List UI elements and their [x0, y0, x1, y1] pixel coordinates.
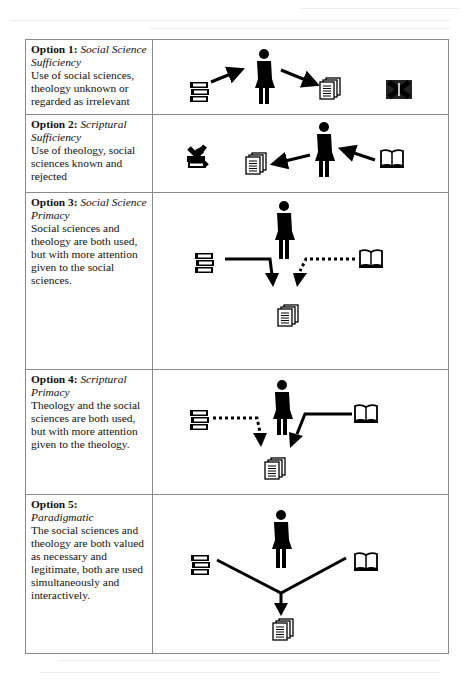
option-3-description: Social sciences and theology are both us…: [31, 222, 138, 286]
option-4-text: Option 4: Scriptural Primacy Theology an…: [26, 370, 153, 495]
option-4-number: Option 4:: [31, 373, 78, 385]
person-icon: [315, 122, 335, 177]
books-icon: [191, 555, 210, 575]
option-1-figure: [153, 40, 449, 115]
documents-icon: [320, 78, 340, 99]
option-4-description: Theology and the social sciences are bot…: [31, 399, 140, 450]
option-row-5: Option 5: Paradigmatic The social scienc…: [26, 495, 449, 654]
open-book-icon: [354, 405, 378, 422]
solid-arrow-book-to-documents: [289, 414, 352, 448]
option-3-figure: [153, 193, 449, 370]
option-3-text: Option 3: Social Science Primacy Social …: [26, 193, 153, 370]
crossed-out-books-icon: [187, 146, 207, 168]
dotted-arrow-books-to-documents: [213, 418, 267, 447]
person-icon: [275, 201, 295, 259]
options-table: Option 1: Social Science Sufficiency Use…: [25, 39, 449, 654]
arrow-books-to-person: [211, 71, 238, 82]
option-row-3: Option 3: Social Science Primacy Social …: [26, 193, 449, 370]
option-2-description: Use of theology, social sciences known a…: [31, 144, 135, 182]
option-5-name: Paradigmatic: [31, 511, 94, 523]
option-1-text: Option 1: Social Science Sufficiency Use…: [26, 40, 153, 115]
open-book-icon: [380, 150, 404, 167]
person-icon: [273, 380, 293, 435]
option-4-figure: [153, 370, 449, 495]
person-icon: [255, 49, 275, 104]
documents-icon: [246, 153, 266, 174]
option-2-text: Option 2: Scriptural Sufficiency Use of …: [26, 115, 153, 193]
solid-arrow-books-to-documents: [225, 259, 279, 287]
dotted-arrow-book-to-documents: [293, 259, 355, 287]
option-1-description: Use of social sciences, theology unknown…: [31, 69, 134, 107]
books-icon: [190, 410, 209, 430]
option-row-2: Option 2: Scriptural Sufficiency Use of …: [26, 115, 449, 193]
open-book-icon: [354, 553, 378, 570]
documents-icon: [273, 619, 293, 640]
documents-icon: [265, 458, 285, 479]
option-2-figure: [153, 115, 449, 193]
option-5-description: The social sciences and theology are bot…: [31, 524, 144, 601]
option-5-number: Option 5:: [31, 498, 78, 510]
arrow-person-to-documents: [277, 155, 310, 163]
option-5-text: Option 5: Paradigmatic The social scienc…: [26, 495, 153, 654]
open-book-icon: [359, 250, 383, 267]
option-row-4: Option 4: Scriptural Primacy Theology an…: [26, 370, 449, 495]
option-3-number: Option 3:: [31, 196, 78, 208]
option-5-figure: [153, 495, 449, 654]
option-2-number: Option 2:: [31, 118, 78, 130]
crossed-out-book-icon: [386, 80, 412, 99]
arrow-person-to-documents: [281, 70, 313, 83]
documents-icon: [278, 305, 298, 326]
arrow-book-to-person: [345, 150, 375, 160]
books-icon: [195, 253, 214, 273]
option-row-1: Option 1: Social Science Sufficiency Use…: [26, 40, 449, 115]
books-icon: [190, 82, 209, 102]
person-icon: [272, 510, 292, 568]
converging-arrow-to-documents: [217, 558, 346, 616]
option-1-number: Option 1:: [31, 43, 78, 55]
